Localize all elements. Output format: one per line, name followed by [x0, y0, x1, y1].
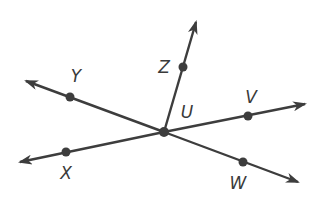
label-w: W: [230, 175, 247, 192]
ray-ux: [20, 132, 164, 162]
geometry-diagram: [0, 0, 314, 213]
point-z: [179, 63, 188, 72]
label-u: U: [181, 104, 193, 121]
point-w: [239, 158, 248, 167]
label-x: X: [60, 165, 72, 182]
label-z: Z: [158, 59, 170, 76]
point-u: [159, 127, 169, 137]
point-y: [66, 93, 75, 102]
label-v: V: [245, 89, 257, 106]
point-x: [62, 148, 71, 157]
point-v: [244, 112, 253, 121]
ray-uy: [26, 81, 164, 132]
label-y: Y: [71, 68, 81, 85]
